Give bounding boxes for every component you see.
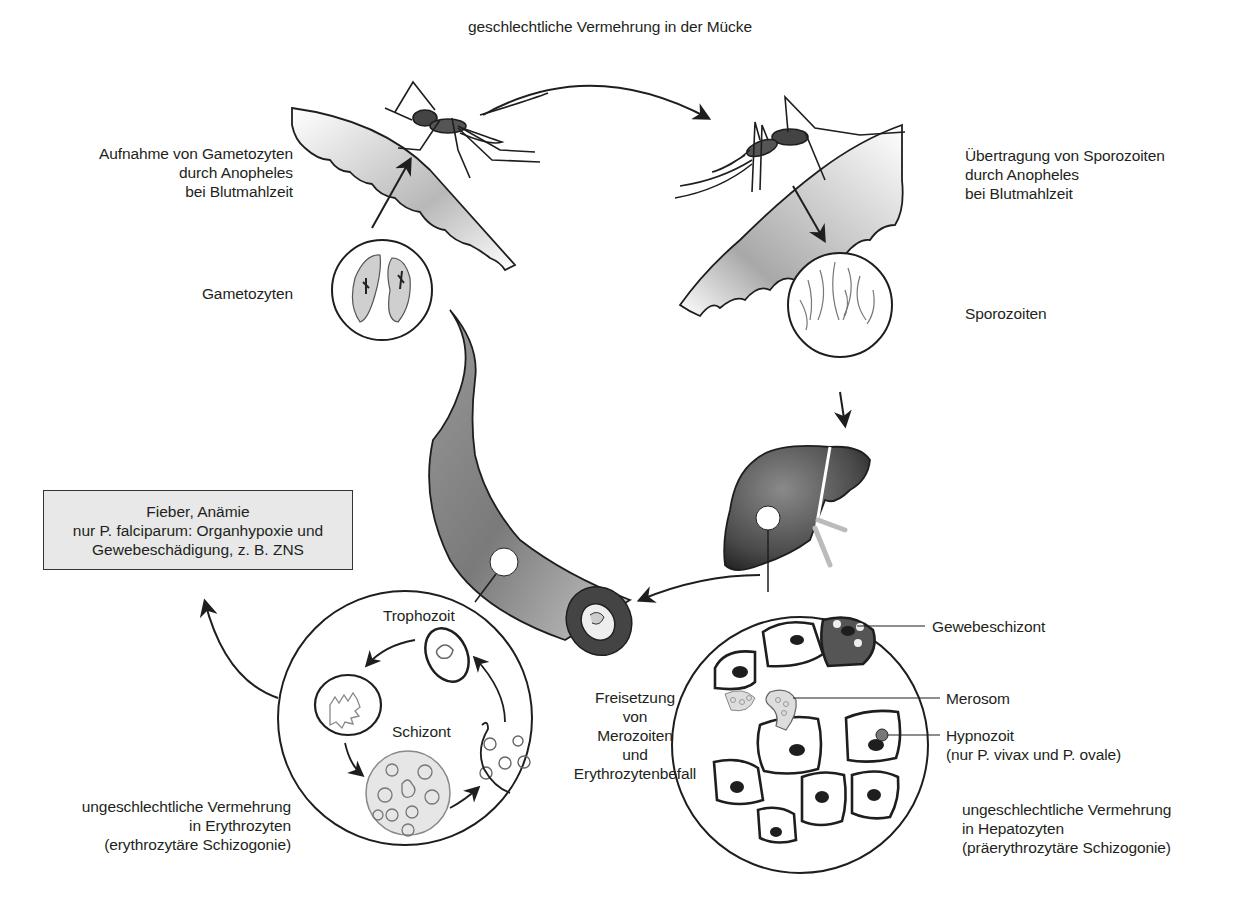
label-hypnozoite: Hypnozoit (nur P. vivax und P. ovale) [946,726,1121,764]
label-erythrocytic-schizogony: ungeschlechtliche Vermehrung in Erythroz… [20,797,291,854]
label-sporozoites: Sporozoiten [965,304,1047,323]
symptom-line-2: nur P. falciparum: Organhypoxie und [73,521,323,540]
hepatocyte-circle-icon [672,617,940,873]
symptom-line-1: Fieber, Anämie [146,502,249,521]
label-gametocyte-uptake: Aufnahme von Gametozyten durch Anopheles… [40,144,293,201]
label-trophozoite: Trophozoit [383,606,455,625]
label-merosome: Merosom [946,689,1010,708]
label-hepatic-schizogony: ungeschlechtliche Vermehrung in Hepatozy… [962,800,1171,857]
label-sexual-reproduction: geschlechtliche Vermehrung in der Mücke [410,17,810,36]
arrow-liver-to-bloodstream [640,575,760,600]
liver-icon [724,446,870,592]
label-tissue-schizont: Gewebeschizont [932,617,1045,636]
label-schizont: Schizont [392,722,451,741]
label-gametocytes: Gametozyten [140,284,293,303]
label-merozoite-release: Freisetzung von Merozoiten und Erythrozy… [560,688,710,783]
symptom-line-3: Gewebeschädigung, z. B. ZNS [92,540,304,559]
arrow-erythrocytes-to-symptoms [205,602,278,698]
label-sporozoite-transmission: Übertragung von Sporozoiten durch Anophe… [965,146,1165,203]
malaria-lifecycle-diagram: geschlechtliche Vermehrung in der Mücke … [0,0,1245,906]
arrow-sexual-reproduction [483,86,708,118]
gametocytes-circle-icon [332,240,432,340]
arrow-sporozoites-to-liver [840,392,845,425]
symptoms-box: Fieber, Anämie nur P. falciparum: Organh… [43,490,353,570]
sporozoites-circle-icon [788,253,892,357]
erythrocyte-cycle-circle-icon [278,591,532,845]
